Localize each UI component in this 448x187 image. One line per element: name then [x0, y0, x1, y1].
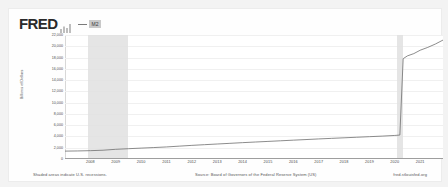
- recession-note: Shaded areas indicate U.S. recessions.: [33, 172, 107, 177]
- x-tick-label: 2021: [416, 160, 425, 165]
- x-tick-label: 2019: [365, 160, 374, 165]
- source-note: Source: Board of Governors of the Federa…: [195, 172, 316, 177]
- x-tick-label: 2011: [162, 160, 171, 165]
- y-tick-label: 12,000: [52, 89, 63, 93]
- chart-card: FRED M2 Billions of Dollars 22,00020,000…: [8, 8, 442, 182]
- y-tick-label: 22,000: [52, 33, 63, 37]
- y-tick-label: 6,000: [54, 123, 63, 127]
- plot-area: [65, 35, 443, 159]
- series-line-m2: [65, 35, 443, 159]
- x-axis-tick-labels: 2008200920102011201220132014201520162017…: [65, 160, 443, 170]
- y-tick-label: 0: [61, 157, 63, 161]
- x-tick-label: 2010: [137, 160, 146, 165]
- mini-bar-chart-icon: [60, 19, 71, 29]
- x-tick-label: 2013: [213, 160, 222, 165]
- x-tick-label: 2015: [264, 160, 273, 165]
- y-tick-label: 4,000: [54, 134, 63, 138]
- x-tick-label: 2020: [390, 160, 399, 165]
- y-tick-label: 16,000: [52, 67, 63, 71]
- chart-header: FRED M2: [19, 13, 101, 33]
- chart-footer: Shaded areas indicate U.S. recessions. S…: [9, 172, 441, 184]
- x-tick-label: 2016: [289, 160, 298, 165]
- x-tick-label: 2012: [187, 160, 196, 165]
- y-tick-label: 14,000: [52, 78, 63, 82]
- fred-logo[interactable]: FRED: [19, 16, 57, 31]
- y-axis-tick-labels: 22,00020,00018,00016,00014,00012,00010,0…: [31, 35, 63, 159]
- fred-attribution-link[interactable]: fred.stlouisfed.org: [393, 172, 427, 177]
- x-tick-label: 2009: [111, 160, 120, 165]
- legend-series-label: M2: [89, 20, 100, 28]
- y-tick-label: 2,000: [54, 146, 63, 150]
- series-legend[interactable]: M2: [78, 20, 100, 28]
- legend-line-swatch: [78, 24, 87, 25]
- y-axis-title: Billions of Dollars: [20, 70, 24, 99]
- fred-chart-screenshot: FRED M2 Billions of Dollars 22,00020,000…: [0, 0, 448, 187]
- y-tick-label: 10,000: [52, 101, 63, 105]
- x-tick-label: 2014: [238, 160, 247, 165]
- y-tick-label: 8,000: [54, 112, 63, 116]
- x-tick-label: 2017: [314, 160, 323, 165]
- y-tick-label: 20,000: [52, 44, 63, 48]
- x-tick-label: 2018: [340, 160, 349, 165]
- y-tick-label: 18,000: [52, 56, 63, 60]
- x-axis-line: [65, 158, 443, 159]
- x-tick-label: 2008: [86, 160, 95, 165]
